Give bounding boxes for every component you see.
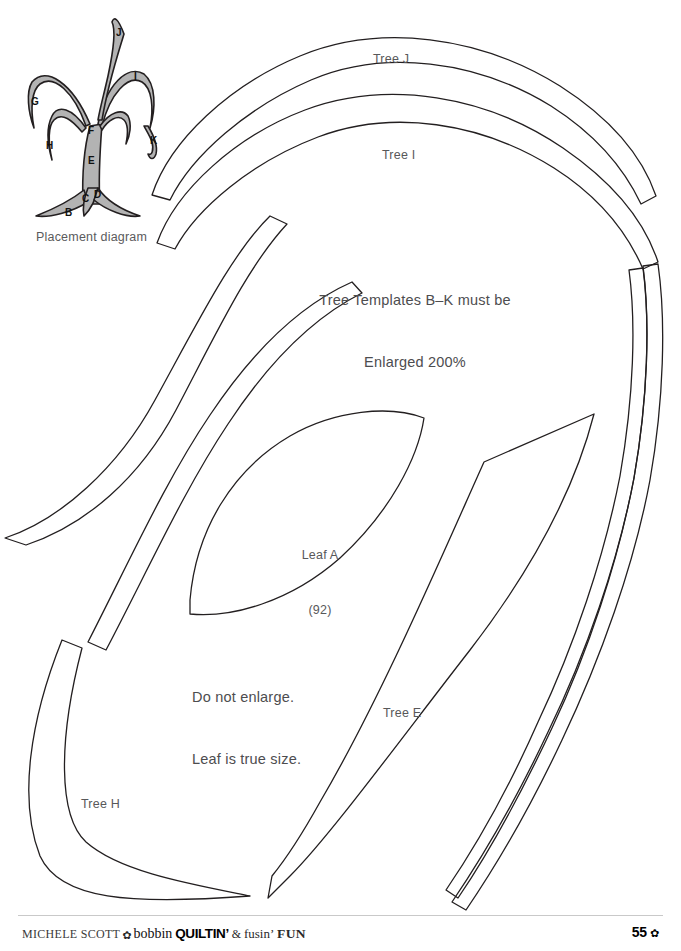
leaf-a-label: Leaf A bbox=[290, 546, 350, 564]
page-number-group: 55✿ bbox=[632, 924, 659, 940]
footer-divider bbox=[18, 915, 663, 916]
page-flower-icon: ✿ bbox=[647, 927, 659, 940]
tree-h-label: Tree H bbox=[81, 795, 120, 813]
tree-e-label: Tree E bbox=[383, 704, 421, 722]
placement-label-g: G bbox=[31, 97, 39, 107]
placement-piece-b bbox=[36, 190, 88, 216]
enlargement-note-line-1: Tree Templates B–K must be bbox=[300, 290, 530, 311]
placement-label-j: J bbox=[116, 28, 122, 38]
enlargement-note: Tree Templates B–K must be Enlarged 200% bbox=[300, 249, 530, 414]
footer-brand-fusin: fusin’ bbox=[244, 926, 274, 941]
footer-credit: MICHELE SCOTT✿bobbin QUILTIN’ & fusin’ F… bbox=[22, 926, 306, 942]
tree-h-outline bbox=[5, 216, 287, 545]
placement-label-k: K bbox=[150, 136, 157, 146]
footer-ampersand: & bbox=[232, 927, 241, 941]
flower-icon: ✿ bbox=[120, 929, 133, 942]
footer-author: MICHELE SCOTT bbox=[22, 927, 120, 941]
leaf-note: Do not enlarge. Leaf is true size. bbox=[192, 646, 301, 811]
placement-diagram: B C D E F G H I J K bbox=[10, 8, 175, 228]
tree-i-label: Tree I bbox=[382, 146, 415, 164]
placement-label-e: E bbox=[88, 156, 95, 166]
leaf-note-line-2: Leaf is true size. bbox=[192, 749, 301, 770]
page-footer: MICHELE SCOTT✿bobbin QUILTIN’ & fusin’ F… bbox=[0, 915, 681, 951]
tree-e-outline bbox=[268, 414, 594, 898]
placement-label-i: I bbox=[134, 72, 137, 82]
footer-brand-quiltin: QUILTIN bbox=[175, 926, 225, 941]
tree-j-label: Tree J bbox=[373, 50, 409, 68]
template-page: B C D E F G H I J K Placement diagram Tr… bbox=[0, 0, 681, 951]
placement-piece-h bbox=[48, 109, 86, 160]
placement-label-d: D bbox=[94, 190, 101, 200]
footer-brand-fun: FUN bbox=[277, 926, 306, 941]
placement-diagram-svg bbox=[10, 8, 175, 228]
footer-brand-apostrophe: ’ bbox=[225, 926, 228, 941]
leaf-a-sublabel: (92) bbox=[290, 601, 350, 619]
placement-diagram-caption: Placement diagram bbox=[36, 228, 147, 246]
footer-brand-bobbin: bobbin bbox=[133, 926, 172, 941]
placement-label-h: H bbox=[46, 141, 53, 151]
page-number: 55 bbox=[632, 924, 647, 940]
placement-label-f: F bbox=[88, 126, 94, 136]
placement-label-b: B bbox=[65, 208, 72, 218]
placement-label-c: C bbox=[82, 194, 89, 204]
tree-i-outline bbox=[157, 95, 658, 269]
enlargement-note-line-2: Enlarged 200% bbox=[300, 352, 530, 373]
leaf-a-label-group: Leaf A (92) bbox=[290, 510, 350, 655]
leaf-note-line-1: Do not enlarge. bbox=[192, 687, 301, 708]
